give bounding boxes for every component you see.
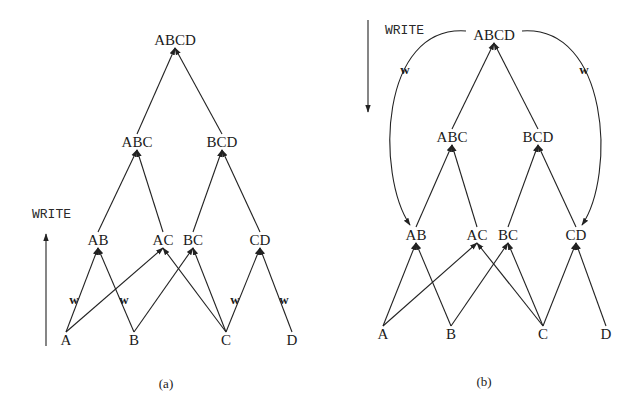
edge-a-ab-b <box>383 243 416 326</box>
edge-bc-bcd-b <box>508 145 538 227</box>
write-label-a: WRITE <box>32 207 71 222</box>
figure-a: wwww ABCDABCBCDABACBCCDABCD WRITE (a) <box>32 32 298 391</box>
caption-b: (b) <box>476 374 491 389</box>
node-abcd-b: ABCD <box>473 27 515 43</box>
edge-d-cd-a <box>260 248 292 332</box>
node-c-a: C <box>221 332 231 348</box>
edges-a: wwww <box>66 48 292 332</box>
edge-cd-bcd-a <box>222 150 260 232</box>
edge-ab-abc-a <box>98 150 137 232</box>
edge-c-cd-a <box>226 248 260 332</box>
edge-cd-bcd-b <box>538 145 576 227</box>
edge-b-ab-a <box>98 248 134 332</box>
edge-b-ab-b <box>416 243 451 326</box>
edge-curved-abcd-ab <box>390 31 466 225</box>
node-cd-b: CD <box>566 227 587 243</box>
node-cd-a: CD <box>250 232 271 248</box>
edge-bcd-abcd-a <box>175 48 222 134</box>
edge-a-ac-a <box>66 248 163 332</box>
node-a-a: A <box>61 332 72 348</box>
node-b-b: B <box>446 326 456 342</box>
node-a-b: A <box>378 326 389 342</box>
node-d-b: D <box>601 326 612 342</box>
node-abc-a: ABC <box>122 134 153 150</box>
node-ac-b: AC <box>467 227 488 243</box>
edge-bcd-abcd-b <box>494 43 538 129</box>
edge-c-cd-b <box>543 243 576 326</box>
edge-label-w: w <box>119 292 129 307</box>
edge-b-bc-b <box>451 243 508 326</box>
node-bc-b: BC <box>498 227 518 243</box>
node-ab-a: AB <box>88 232 109 248</box>
edge-label-w: w <box>579 62 589 77</box>
node-b-a: B <box>129 332 139 348</box>
caption-a: (a) <box>159 376 173 391</box>
edge-label-w: w <box>400 62 410 77</box>
write-label-b: WRITE <box>385 23 424 38</box>
edge-ac-abc-a <box>137 150 163 232</box>
node-bcd-a: BCD <box>207 134 238 150</box>
edges-b: ww <box>383 31 606 326</box>
edge-c-bc-a <box>193 248 226 332</box>
edge-ab-abc-b <box>416 145 452 227</box>
figure-b: ww ABCDABCBCDABACBCCDABCD WRITE (b) <box>368 20 612 389</box>
edge-label-w: w <box>69 292 79 307</box>
nodes-b: ABCDABCBCDABACBCCDABCD <box>378 27 612 342</box>
node-ab-b: AB <box>406 227 427 243</box>
node-c-b: C <box>538 326 548 342</box>
edge-abc-abcd-a <box>137 48 175 134</box>
edge-abc-abcd-b <box>452 43 494 129</box>
node-abcd-a: ABCD <box>154 32 196 48</box>
edge-d-cd-b <box>576 243 606 326</box>
edge-c-ac-b <box>477 243 543 326</box>
edge-bc-bcd-a <box>193 150 222 232</box>
node-abc-b: ABC <box>437 129 468 145</box>
edge-c-ac-a <box>163 248 226 332</box>
node-bcd-b: BCD <box>523 129 554 145</box>
edge-c-bc-b <box>508 243 543 326</box>
edge-b-bc-a <box>134 248 193 332</box>
edge-label-w: w <box>279 292 289 307</box>
edge-a-ac-b <box>383 243 477 326</box>
edge-a-ab-a <box>66 248 98 332</box>
edge-label-w: w <box>230 292 240 307</box>
nodes-a: ABCDABCBCDABACBCCDABCD <box>61 32 298 348</box>
node-ac-a: AC <box>153 232 174 248</box>
lattice-diagram: wwww ABCDABCBCDABACBCCDABCD WRITE (a) ww… <box>0 0 642 407</box>
node-d-a: D <box>287 332 298 348</box>
node-bc-a: BC <box>183 232 203 248</box>
edge-ac-abc-b <box>452 145 477 227</box>
